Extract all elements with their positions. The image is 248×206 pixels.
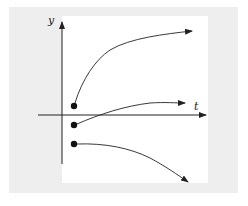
lower-initial-point (71, 141, 77, 147)
middle-initial-point (71, 122, 77, 128)
upper-initial-point (71, 103, 77, 109)
upper-curve (71, 31, 192, 109)
diagram: y t (0, 0, 248, 206)
lower-curve (71, 141, 188, 182)
y-axis-label: y (47, 14, 55, 27)
t-axis-label: t (194, 100, 199, 113)
